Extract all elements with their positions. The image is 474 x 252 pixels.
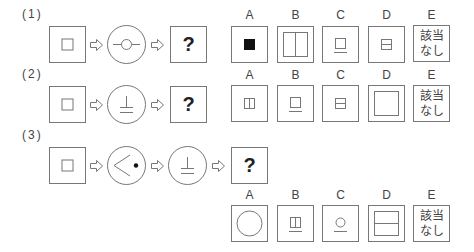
q3-transform-circle-1 [107,146,146,185]
question-2-label: (2) [22,67,43,81]
q1-option-e-label: E [413,8,450,22]
large-circle-icon [232,206,267,241]
q3-option-c[interactable] [322,205,359,242]
divided-square-horizontal-icon [369,27,404,62]
divided-square-horizontal-icon [323,86,358,121]
none-applicable-line1: 該当 [414,209,449,224]
q1-option-e[interactable]: 該当なし [413,25,450,62]
circle-with-underline-icon [323,206,358,241]
arrow-right-icon [151,39,164,51]
q2-option-d-label: D [368,68,405,82]
filled-square-icon [232,27,267,62]
q2-option-e-label: E [413,68,450,82]
question-3-label: (3) [22,128,43,142]
q2-option-c-label: C [322,68,359,82]
arrow-right-icon [212,160,225,172]
divided-large-square-horizontal-icon [369,206,404,241]
small-square-icon [50,87,85,122]
divided-square-vertical-icon [232,86,267,121]
square-with-underline-icon [323,27,358,62]
divided-square-with-underline-icon [278,206,313,241]
q2-input-figure [49,86,86,123]
inverted-t-underline-icon [169,147,206,184]
q3-option-a[interactable] [231,205,268,242]
inverted-t-underline-icon [108,86,145,123]
arrow-right-icon [151,99,164,111]
q1-option-a-label: A [231,8,268,22]
small-square-icon [50,27,85,62]
question-mark: ? [232,148,267,183]
q2-transform-circle [107,85,146,124]
q3-option-a-label: A [231,188,268,202]
none-applicable-line2: なし [414,224,449,239]
none-applicable-line1: 該当 [414,89,449,104]
q3-option-e[interactable]: 該当なし [413,205,450,242]
line-through-circle-icon [108,26,145,63]
q3-option-e-label: E [413,188,450,202]
arrow-right-icon [90,160,103,172]
q3-input-figure [49,147,86,184]
q2-option-d[interactable] [368,85,405,122]
q1-transform-circle [107,25,146,64]
q1-option-a[interactable] [231,26,268,63]
large-square-icon [369,86,404,121]
arrow-right-icon [151,160,164,172]
q3-option-b-label: B [277,188,314,202]
none-applicable-line2: なし [414,104,449,119]
divided-square-vertical-icon [278,27,313,62]
q3-option-d[interactable] [368,205,405,242]
question-mark: ? [171,27,206,62]
q3-option-d-label: D [368,188,405,202]
q3-answer-box: ? [231,147,268,184]
q1-option-d[interactable] [368,26,405,63]
q2-option-e[interactable]: 該当なし [413,85,450,122]
q1-input-figure [49,26,86,63]
q1-option-c[interactable] [322,26,359,63]
q2-option-a-label: A [231,68,268,82]
q1-answer-box: ? [170,26,207,63]
q1-option-d-label: D [368,8,405,22]
q2-option-b[interactable] [277,85,314,122]
q2-option-c[interactable] [322,85,359,122]
q1-option-b-label: B [277,8,314,22]
q2-answer-box: ? [170,86,207,123]
q1-option-c-label: C [322,8,359,22]
none-applicable-line2: なし [414,44,449,59]
q3-option-c-label: C [322,188,359,202]
question-mark: ? [171,87,206,122]
question-1-label: (1) [22,7,43,21]
arrow-right-icon [90,39,103,51]
angle-with-dot-icon [108,147,145,184]
q3-option-b[interactable] [277,205,314,242]
q3-transform-circle-2 [168,146,207,185]
square-with-underline-icon [278,86,313,121]
q2-option-a[interactable] [231,85,268,122]
arrow-right-icon [90,99,103,111]
q1-option-b[interactable] [277,26,314,63]
q2-option-b-label: B [277,68,314,82]
small-square-icon [50,148,85,183]
none-applicable-line1: 該当 [414,29,449,44]
